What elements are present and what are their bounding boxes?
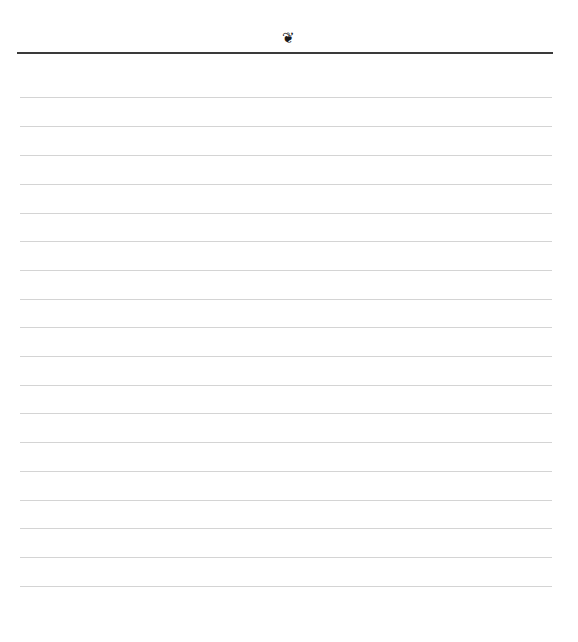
ruled-line [20,356,552,357]
ruled-line [20,586,552,587]
ruled-line [20,528,552,529]
ruled-line [20,327,552,328]
ruled-line [20,126,552,127]
ruled-line [20,471,552,472]
ruled-line [20,213,552,214]
ruled-line [20,97,552,98]
ruled-lines [20,0,552,642]
ruled-line [20,241,552,242]
ruled-line [20,270,552,271]
ruled-line [20,299,552,300]
ruled-line [20,385,552,386]
ruled-line [20,442,552,443]
ruled-line [20,413,552,414]
ruled-line [20,500,552,501]
ruled-line [20,155,552,156]
ruled-line [20,184,552,185]
lined-page: ❦ [0,0,578,642]
ruled-line [20,557,552,558]
